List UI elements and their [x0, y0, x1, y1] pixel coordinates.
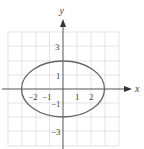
y-axis-arrow-icon [60, 19, 66, 27]
y-tick-label: 1 [56, 71, 61, 81]
x-tick-label: 1 [75, 92, 80, 102]
y-tick-label: 3 [55, 42, 60, 52]
y-axis-label: y [59, 5, 65, 16]
y-tick-label: −3 [51, 127, 61, 137]
y-tick-label: −1 [51, 99, 61, 109]
x-tick-label: −2 [28, 92, 38, 102]
ellipse-graph: y x −2 −1 1 2 3 1 −1 −3 [0, 0, 144, 149]
x-axis-arrow-icon [124, 86, 132, 92]
x-axis-label: x [134, 83, 140, 94]
x-tick-label: 2 [89, 92, 94, 102]
